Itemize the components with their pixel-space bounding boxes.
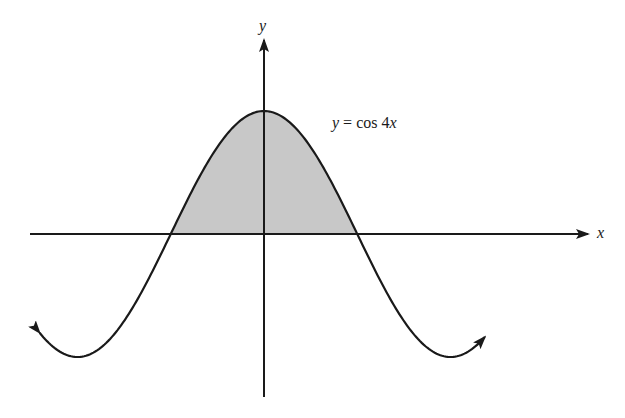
y-axis-label: y <box>257 17 267 35</box>
function-label-eq: = cos 4 <box>339 114 389 131</box>
cosine-graph: y x y = cos 4x <box>0 0 625 418</box>
x-axis-label: x <box>596 224 604 241</box>
function-label-x: x <box>388 114 396 131</box>
function-label: y = cos 4x <box>330 114 397 132</box>
